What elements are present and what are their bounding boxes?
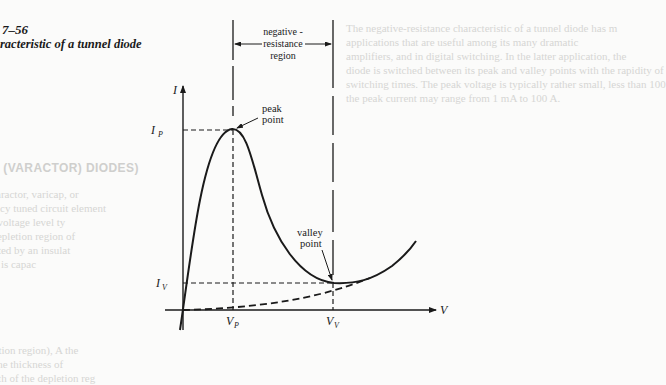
valley-label-line2: point	[300, 238, 322, 249]
ip-label-sub: P	[157, 130, 163, 139]
y-axis-label: I	[172, 83, 178, 97]
valley-label-line1: valley	[297, 227, 323, 238]
peak-pointer-arrow	[237, 118, 258, 128]
region-label-line2: resistance	[263, 38, 303, 49]
iv-label: I V	[155, 276, 168, 292]
ip-label-main: I	[150, 123, 156, 137]
iv-label-main: I	[155, 276, 161, 290]
vv-label-sub: V	[334, 321, 340, 330]
iv-label-sub: V	[162, 283, 168, 292]
ip-label: I P	[150, 123, 163, 139]
vv-label: V V	[326, 314, 340, 330]
vp-label: V P	[226, 314, 239, 330]
region-label-line1: negative -	[263, 26, 303, 37]
valley-pointer-arrow	[322, 250, 332, 280]
x-axis-label: V	[440, 303, 449, 317]
peak-label-line2: point	[262, 114, 284, 125]
peak-label-line1: peak	[262, 103, 283, 114]
vp-label-sub: P	[233, 321, 239, 330]
region-label-line3: region	[270, 50, 296, 61]
